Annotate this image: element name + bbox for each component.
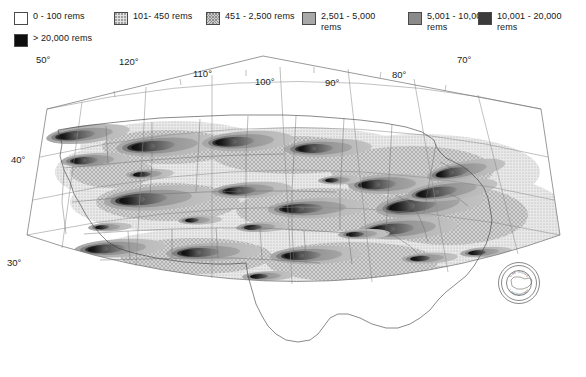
- fallout-plume-layer: [45, 121, 570, 357]
- lat-label-50: 50°: [36, 54, 51, 65]
- legend-swatch-icon-6: [14, 34, 28, 47]
- seal-bottom-text: LABORATORY: [508, 288, 530, 296]
- legend-swatch-icon-2: [206, 12, 220, 25]
- legend-item-3: 2,501 - 5,000 rems: [302, 11, 375, 32]
- legend-swatch-icon-4: [408, 12, 422, 25]
- lon-label-70: 70°: [457, 54, 472, 65]
- legend-label-0: 0 - 100 rems: [33, 11, 85, 22]
- map-canvas: 50° 40° 30° 120° 110° 100° 90° 80° 70° O…: [0, 52, 586, 377]
- legend-item-0: 0 - 100 rems: [14, 11, 85, 25]
- lon-label-100: 100°: [255, 76, 275, 87]
- legend-label-3: 2,501 - 5,000 rems: [321, 11, 375, 32]
- legend-label-1: 101- 450 rems: [133, 11, 192, 22]
- dose-legend: 0 - 100 rems 101- 450 rems 451 - 2,500 r…: [0, 0, 586, 54]
- legend-item-4: 5,001 - 10,000 rems: [408, 11, 486, 32]
- legend-item-5: 10,001 - 20,000 rems: [478, 11, 562, 32]
- legend-label-2: 451 - 2,500 rems: [225, 11, 295, 22]
- legend-swatch-icon-0: [14, 12, 28, 25]
- legend-label-6: > 20,000 rems: [33, 33, 92, 44]
- lon-label-90: 90°: [325, 77, 340, 88]
- oak-ridge-seal-logo: OAK RIDGE LABORATORY: [499, 263, 540, 304]
- lat-label-30: 30°: [7, 257, 22, 268]
- fallout-dose-map: 50° 40° 30° 120° 110° 100° 90° 80° 70° O…: [0, 52, 586, 377]
- legend-swatch-icon-1: [114, 12, 128, 25]
- seal-us-map-icon: [511, 277, 532, 289]
- legend-swatch-icon-3: [302, 12, 316, 25]
- legend-swatch-icon-5: [478, 12, 492, 25]
- lon-label-120: 120°: [119, 56, 139, 67]
- lon-label-110: 110°: [193, 68, 212, 79]
- legend-item-1: 101- 450 rems: [114, 11, 192, 25]
- legend-item-2: 451 - 2,500 rems: [206, 11, 295, 25]
- lon-label-80: 80°: [392, 69, 407, 80]
- legend-item-6: > 20,000 rems: [14, 33, 92, 47]
- legend-label-5: 10,001 - 20,000 rems: [497, 11, 562, 32]
- lat-label-40: 40°: [11, 154, 26, 165]
